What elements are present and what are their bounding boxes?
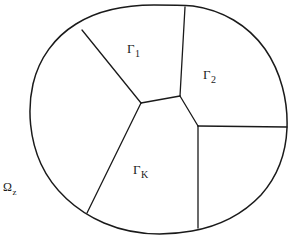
label-gamma-k: ΓK — [133, 161, 148, 177]
outer-domain-boundary — [30, 5, 287, 234]
label-gamma-2-base: Γ — [203, 67, 211, 82]
label-omega-z-subscript: z — [12, 187, 16, 197]
label-omega-z: Ωz — [3, 178, 16, 194]
domain-diagram-figure: Γ1 Γ2 ΓK Ωz — [0, 0, 291, 238]
label-gamma-k-base: Γ — [133, 162, 141, 177]
label-gamma-1-subscript: 1 — [135, 48, 140, 59]
label-gamma-1: Γ1 — [127, 40, 140, 56]
label-gamma-2: Γ2 — [203, 66, 216, 82]
label-omega-z-base: Ω — [3, 180, 12, 194]
label-gamma-2-subscript: 2 — [211, 74, 216, 85]
domain-partition-drawing — [0, 0, 291, 238]
label-gamma-k-subscript: K — [141, 169, 148, 180]
label-gamma-1-base: Γ — [127, 41, 135, 56]
